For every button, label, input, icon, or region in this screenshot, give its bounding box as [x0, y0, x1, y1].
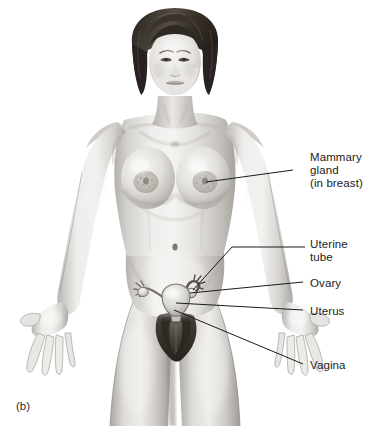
head — [132, 8, 218, 95]
label-ovary: Ovary — [310, 277, 341, 290]
label-vagina: Vagina — [310, 359, 346, 372]
cervix — [171, 316, 181, 322]
ovary-left — [138, 287, 148, 296]
neck — [152, 96, 198, 129]
label-uterus: Uterus — [310, 305, 344, 318]
navel — [172, 244, 177, 251]
figure-caption: (b) — [16, 400, 30, 412]
label-uterine-tube: Uterine tube — [310, 238, 348, 264]
label-mammary-gland: Mammary gland (in breast) — [310, 151, 363, 191]
